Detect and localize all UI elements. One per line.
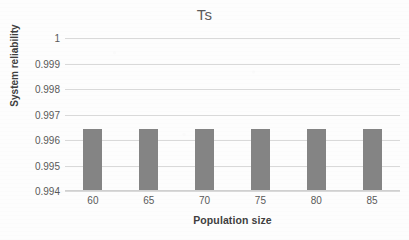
y-axis-tick-label: 0.997 xyxy=(0,109,60,120)
x-axis-tick-label: 65 xyxy=(143,195,154,206)
x-axis-line xyxy=(65,190,400,191)
plot-area xyxy=(65,38,400,191)
y-axis-tick-labels: 10.9990.9980.9970.9960.9950.994 xyxy=(0,38,60,191)
x-axis-tick-label: 80 xyxy=(311,195,322,206)
bar xyxy=(363,129,382,191)
y-axis-tick-label: 0.996 xyxy=(0,135,60,146)
gridline xyxy=(65,191,400,192)
bar xyxy=(307,129,326,191)
bar xyxy=(83,129,102,191)
x-axis-tick-label: 60 xyxy=(87,195,98,206)
chart-title: Ts xyxy=(0,6,409,23)
x-axis-tick-label: 75 xyxy=(255,195,266,206)
x-axis-tick-label: 85 xyxy=(367,195,378,206)
x-axis-title: Population size xyxy=(65,214,400,226)
y-axis-tick-label: 0.995 xyxy=(0,160,60,171)
y-axis-tick-label: 0.999 xyxy=(0,58,60,69)
y-axis-tick-label: 0.994 xyxy=(0,186,60,197)
bars-layer xyxy=(65,38,400,191)
bar xyxy=(139,129,158,191)
bar xyxy=(195,129,214,191)
y-axis-tick-label: 1 xyxy=(0,33,60,44)
x-axis-tick-label: 70 xyxy=(199,195,210,206)
y-axis-tick-label: 0.998 xyxy=(0,84,60,95)
x-axis-tick-labels: 606570758085 xyxy=(65,195,400,211)
bar xyxy=(251,129,270,191)
bar-chart: Ts System reliability 10.9990.9980.9970.… xyxy=(0,0,409,240)
